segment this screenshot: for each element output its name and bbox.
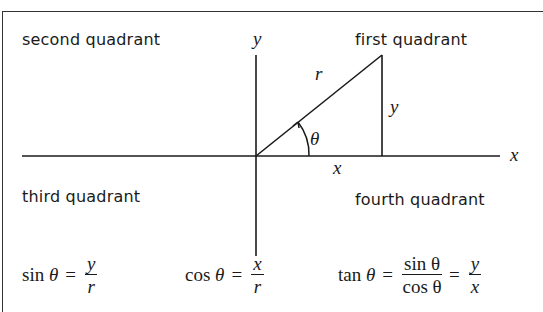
fraction-numerator: sin θ: [402, 254, 442, 275]
y-over-x-fraction: y x: [469, 254, 481, 296]
sine-formula: sin θ = y r: [22, 254, 97, 296]
fraction-numerator: y: [85, 254, 97, 275]
equals-sign: =: [231, 264, 242, 286]
theta-symbol: θ: [49, 264, 58, 286]
equals-sign: =: [449, 264, 460, 286]
angle-arc: [298, 122, 309, 156]
third-quadrant-label: third quadrant: [22, 187, 140, 206]
sin-fraction: y r: [85, 254, 97, 296]
theta-symbol: θ: [215, 264, 224, 286]
opposite-side-label: y: [390, 96, 398, 118]
equals-sign: =: [382, 264, 393, 286]
tan-function: tan: [338, 264, 361, 286]
theta-symbol: θ: [366, 264, 375, 286]
fraction-numerator: y: [469, 254, 481, 275]
y-axis-label: y: [253, 28, 261, 50]
fraction-denominator: cos θ: [402, 275, 441, 296]
cos-function: cos: [185, 264, 210, 286]
adjacent-side-label: x: [333, 157, 341, 179]
sin-function: sin: [22, 264, 44, 286]
fourth-quadrant-label: fourth quadrant: [355, 190, 485, 209]
x-axis-label: x: [510, 144, 518, 166]
hypotenuse-label: r: [315, 63, 322, 85]
angle-arrow-icon: [293, 122, 299, 128]
tangent-formula: tan θ = sin θ cos θ = y x: [338, 254, 481, 296]
fraction-numerator: x: [251, 254, 263, 275]
fraction-denominator: r: [254, 275, 261, 296]
cosine-formula: cos θ = x r: [185, 254, 264, 296]
sin-over-cos-fraction: sin θ cos θ: [402, 254, 442, 296]
angle-label: θ: [310, 128, 319, 150]
fraction-denominator: r: [88, 275, 95, 296]
first-quadrant-label: first quadrant: [355, 30, 467, 49]
equals-sign: =: [65, 264, 76, 286]
cos-fraction: x r: [251, 254, 263, 296]
fraction-denominator: x: [471, 275, 479, 296]
second-quadrant-label: second quadrant: [22, 30, 160, 49]
